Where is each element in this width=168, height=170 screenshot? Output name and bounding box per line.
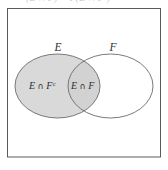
set-e-label: E bbox=[53, 41, 61, 53]
region2-intersect-operator: ∩ bbox=[80, 81, 86, 91]
region2-set-e: E bbox=[70, 80, 77, 91]
region2-set-f: F bbox=[87, 80, 95, 91]
venn-diagram-figure: (E ∩ F) + P(E ∩ Fᶜ) E F E∩Fc bbox=[0, 0, 168, 170]
svg-text:E∩Fc: E∩Fc bbox=[28, 80, 56, 92]
region-label-e-and-f: E∩F bbox=[70, 80, 95, 91]
region1-set-e: E bbox=[28, 80, 35, 91]
venn-canvas: E F E∩Fc E∩F bbox=[0, 0, 168, 170]
region1-complement-superscript: c bbox=[53, 80, 56, 87]
region-label-e-minus-f: E∩Fc bbox=[28, 80, 56, 92]
set-f-label: F bbox=[108, 41, 117, 53]
region1-intersect-operator: ∩ bbox=[38, 81, 44, 91]
svg-text:E∩F: E∩F bbox=[70, 80, 95, 91]
